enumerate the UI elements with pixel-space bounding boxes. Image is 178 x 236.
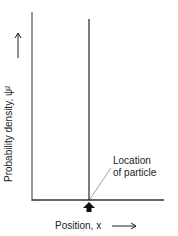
chart bbox=[0, 0, 178, 236]
x-arrow-icon bbox=[112, 223, 136, 229]
y-axis-label: Probability density, ψ² bbox=[3, 86, 14, 182]
annotation-leader-line bbox=[90, 168, 111, 199]
annotation-line1: Location bbox=[113, 155, 151, 166]
annotation-line2: of particle bbox=[113, 167, 156, 178]
x-axis-label: Position, x bbox=[55, 220, 101, 231]
y-arrow-icon bbox=[15, 33, 21, 58]
location-arrow-icon bbox=[83, 202, 95, 212]
